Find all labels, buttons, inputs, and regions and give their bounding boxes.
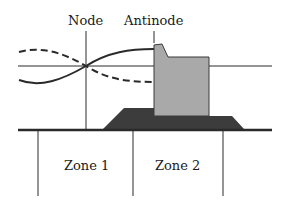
building bbox=[154, 44, 209, 116]
node-label: Node bbox=[68, 13, 104, 28]
antinode-label: Antinode bbox=[123, 13, 184, 28]
standing-wave-diagram: Node Antinode Zone 1 Zone 2 bbox=[0, 0, 286, 209]
zone2-label: Zone 2 bbox=[155, 158, 200, 173]
zone1-label: Zone 1 bbox=[64, 158, 109, 173]
